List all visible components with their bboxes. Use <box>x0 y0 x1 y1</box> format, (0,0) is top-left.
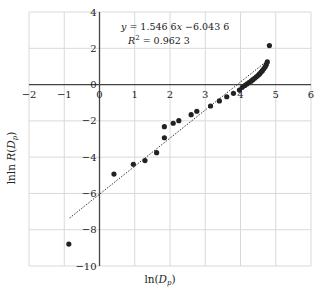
x-tick-label: −1 <box>57 89 72 100</box>
r-squared-text: R2 = 0.962 3 <box>127 34 190 46</box>
data-point <box>111 171 116 176</box>
data-point <box>162 124 167 129</box>
y-tick-label: −10 <box>75 261 96 272</box>
data-point <box>162 135 167 140</box>
y-tick-label: 4 <box>90 7 96 18</box>
eq-rest: = 1.546 6 <box>126 21 176 32</box>
x-tick-label: 1 <box>132 89 138 100</box>
y-tick-label: −2 <box>82 115 97 126</box>
data-point <box>224 94 229 99</box>
data-point <box>231 91 236 96</box>
y-tick-label: 0 <box>90 79 96 90</box>
x-tick-label: 2 <box>167 89 173 100</box>
data-points <box>66 43 272 247</box>
y-tick-label: −8 <box>82 224 97 235</box>
data-point <box>131 162 136 167</box>
scatter-chart: −2−10123456420−2−4−6−8−10 y = 1.546 6x −… <box>0 0 319 289</box>
y-axis-title: lnln R(Dp) <box>5 132 19 185</box>
data-point <box>189 112 194 117</box>
data-point <box>154 150 159 155</box>
y-tick-label: 2 <box>90 43 96 54</box>
x-tick-label: 5 <box>273 89 279 100</box>
grid-lines <box>29 12 311 266</box>
x-tick-label: 3 <box>202 89 208 100</box>
data-point <box>217 98 222 103</box>
data-point <box>267 43 272 48</box>
data-point <box>194 109 199 114</box>
data-point <box>208 103 213 108</box>
data-point <box>176 118 181 123</box>
x-tick-label: −2 <box>22 89 37 100</box>
y-tick-label: −4 <box>82 152 97 163</box>
x-tick-label: 6 <box>308 89 314 100</box>
data-point <box>66 241 71 246</box>
data-point <box>265 59 270 64</box>
x-tick-label: 0 <box>96 89 102 100</box>
data-point <box>142 158 147 163</box>
regression-equation: y = 1.546 6x −6.043 6 R2 = 0.962 3 <box>120 21 229 46</box>
y-tick-label: −6 <box>82 188 97 199</box>
x-axis-title: ln(Dp) <box>144 273 175 287</box>
data-point <box>171 121 176 126</box>
equation-text: y = 1.546 6x −6.043 6 <box>120 21 229 32</box>
